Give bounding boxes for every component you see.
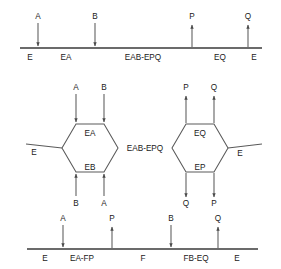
top-flux-label-B: B (92, 12, 98, 21)
left-hexagon-inner-bottom-label: EB (85, 163, 96, 172)
top-flux-Q: Q (245, 12, 251, 47)
bottom-flux-A: A (60, 214, 66, 247)
hexagon-connector-label: EAB-EPQ (127, 144, 163, 153)
bottom-state-label-3: F (140, 254, 145, 263)
top-state-label-4: EQ (214, 53, 226, 62)
top-flux-P: P (189, 12, 195, 47)
left-hexagon-top-flux-label-A: A (73, 83, 79, 92)
right-hexagon-bottom-flux-Q: Q (183, 173, 189, 208)
right-hexagon-inner-top-label: EQ (194, 129, 206, 138)
left-hexagon-top-flux-A: A (73, 83, 79, 122)
panel-bottom-linear-scheme: A P B Q E EA-FP F FB-EQ E (27, 214, 258, 263)
right-hexagon-top-flux-label-Q: Q (211, 83, 217, 92)
right-hexagon-stub (228, 144, 262, 148)
bottom-flux-P: P (109, 214, 115, 248)
bottom-state-label-1: E (42, 254, 48, 263)
right-hexagon-bottom-flux-label-Q: Q (183, 199, 189, 208)
reaction-mechanism-diagram: A B P Q E EA EAB-EPQ EQ E (0, 0, 281, 269)
top-flux-label-A: A (35, 12, 41, 21)
right-hexagon-top-flux-Q: Q (211, 83, 217, 123)
top-state-label-3: EAB-EPQ (125, 53, 161, 62)
bottom-flux-label-P: P (109, 214, 115, 223)
right-hexagon-bottom-flux-label-P: P (211, 199, 217, 208)
top-flux-B: B (92, 12, 98, 46)
bottom-flux-B: B (168, 214, 174, 247)
top-state-label-2: EA (61, 53, 72, 62)
left-hexagon-top-flux-label-B: B (101, 83, 107, 92)
right-hexagon-top-flux-label-P: P (183, 83, 189, 92)
panel-middle-hexagon-scheme: E EA EB A B B A EAB-EPQ (26, 83, 262, 208)
top-state-label-1: E (27, 53, 33, 62)
left-hexagon-bottom-flux-label-B: B (73, 199, 79, 208)
panel-top-linear-scheme: A B P Q E EA EAB-EPQ EQ E (20, 12, 262, 62)
bottom-flux-label-Q: Q (215, 214, 221, 223)
left-hexagon-side-label-E: E (31, 148, 37, 157)
right-hexagon-side-label-E: E (237, 149, 243, 158)
top-state-label-5: E (251, 53, 257, 62)
top-flux-label-P: P (189, 12, 195, 21)
left-hexagon-inner-top-label: EA (85, 129, 96, 138)
top-flux-A: A (35, 12, 41, 46)
left-hexagon-bottom-flux-B: B (73, 174, 79, 208)
left-hexagon-bottom-flux-label-A: A (101, 199, 107, 208)
bottom-flux-label-B: B (168, 214, 174, 223)
top-flux-label-Q: Q (245, 12, 251, 21)
bottom-flux-Q: Q (215, 214, 221, 248)
right-hexagon-inner-bottom-label: EP (195, 163, 206, 172)
bottom-state-label-4: FB-EQ (183, 254, 208, 263)
diagram-root: A B P Q E EA EAB-EPQ EQ E (0, 0, 281, 269)
bottom-state-label-2: EA-FP (70, 254, 95, 263)
bottom-flux-label-A: A (60, 214, 66, 223)
bottom-state-label-5: E (234, 254, 240, 263)
left-hexagon-top-flux-B: B (101, 83, 107, 122)
right-hexagon-bottom-flux-P: P (211, 173, 217, 208)
right-hexagon-top-flux-P: P (183, 83, 189, 123)
left-hexagon-bottom-flux-A: A (101, 174, 107, 208)
